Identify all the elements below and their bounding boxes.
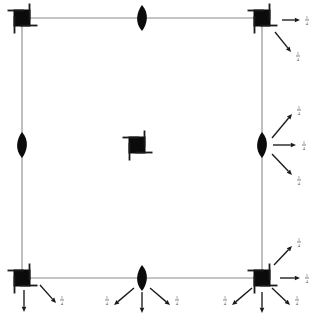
diagram-canvas: 141414141414141414141414: [0, 0, 318, 314]
support-square-top-right: [254, 10, 271, 27]
support-square-center: [129, 137, 146, 154]
support-square-top-left: [14, 10, 31, 27]
support-square-bottom-left: [14, 270, 31, 287]
support-square-bottom-right: [254, 270, 271, 287]
frame-support-diagram: 141414141414141414141414: [0, 0, 318, 314]
